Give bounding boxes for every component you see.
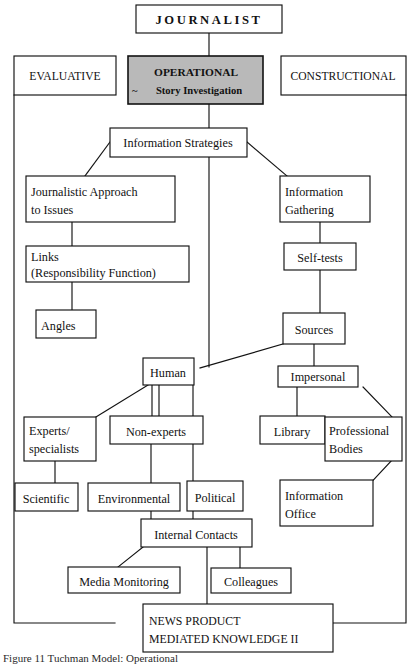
evaluative-label: EVALUATIVE [29, 70, 100, 83]
impersonal-label: Impersonal [291, 370, 346, 384]
edge-human-experts [96, 385, 148, 417]
scientific-label: Scientific [23, 492, 70, 506]
node-professional-bodies[interactable]: Professional Bodies [325, 417, 402, 461]
experts-line2: specialists [29, 442, 79, 456]
node-internal-contacts[interactable]: Internal Contacts [141, 519, 252, 547]
node-impersonal[interactable]: Impersonal [278, 366, 358, 387]
colleagues-label: Colleagues [224, 575, 278, 589]
information-strategies-label: Information Strategies [123, 136, 233, 150]
edge-infostrategies-gathering [247, 142, 287, 176]
news-product-line1: NEWS PRODUCT [149, 614, 241, 628]
figure-caption: Figure 11 Tuchman Model: Operational [3, 652, 417, 665]
edge-constructional-frame [302, 95, 406, 623]
node-non-experts[interactable]: Non-experts [110, 416, 203, 444]
node-constructional[interactable]: CONSTRUCTIONAL [281, 56, 406, 95]
human-label: Human [150, 366, 186, 380]
non-experts-label: Non-experts [126, 425, 186, 439]
node-angles[interactable]: Angles [36, 310, 96, 338]
node-environmental[interactable]: Environmental [88, 483, 180, 511]
node-scientific[interactable]: Scientific [15, 483, 78, 511]
node-experts-specialists[interactable]: Experts/ specialists [24, 417, 96, 461]
media-monitoring-label: Media Monitoring [79, 575, 169, 589]
node-news-product[interactable]: NEWS PRODUCT MEDIATED KNOWLEDGE II [143, 604, 333, 652]
political-label: Political [195, 491, 236, 505]
sources-label: Sources [295, 323, 334, 337]
journalistic-approach-line1: Journalistic Approach [31, 185, 138, 199]
node-operational[interactable]: OPERATIONAL ~ Story Investigation [128, 56, 263, 104]
operational-tilde: ~ [132, 85, 138, 96]
operational-subtitle: Story Investigation [156, 85, 242, 96]
self-tests-label: Self-tests [297, 251, 343, 265]
environmental-label: Environmental [98, 492, 171, 506]
node-information-gathering[interactable]: Information Gathering [280, 176, 370, 222]
angles-label: Angles [41, 319, 76, 333]
internal-contacts-label: Internal Contacts [154, 528, 238, 542]
professional-line2: Bodies [329, 442, 363, 456]
edge-infostrategies-journalistic [85, 142, 110, 176]
node-information-office[interactable]: Information Office [280, 480, 373, 526]
information-gathering-line1: Information [285, 185, 343, 199]
node-self-tests[interactable]: Self-tests [284, 243, 356, 270]
information-office-line2: Office [285, 507, 316, 521]
information-office-line1: Information [285, 489, 343, 503]
node-sources[interactable]: Sources [283, 313, 345, 344]
node-political[interactable]: Political [187, 481, 243, 511]
journalist-label: JOURNALIST [155, 13, 262, 27]
news-product-line2: MEDIATED KNOWLEDGE II [149, 632, 298, 646]
node-media-monitoring[interactable]: Media Monitoring [68, 567, 180, 593]
edge-sources-human [200, 344, 283, 368]
node-links[interactable]: Links (Responsibility Function) [26, 246, 189, 282]
operational-label: OPERATIONAL [154, 66, 238, 78]
node-information-strategies[interactable]: Information Strategies [110, 128, 247, 157]
edge-evaluative-frame [14, 95, 115, 623]
node-evaluative[interactable]: EVALUATIVE [14, 56, 116, 95]
node-colleagues[interactable]: Colleagues [211, 568, 291, 593]
journalistic-approach-line2: to Issues [31, 203, 74, 217]
edge-internal-media [118, 547, 143, 567]
links-line2: (Responsibility Function) [31, 266, 156, 280]
links-line1: Links [31, 250, 59, 264]
node-human[interactable]: Human [143, 358, 194, 385]
information-gathering-line2: Gathering [285, 203, 334, 217]
library-label: Library [274, 425, 311, 439]
operational-box [128, 56, 263, 104]
constructional-label: CONSTRUCTIONAL [291, 70, 396, 83]
node-library[interactable]: Library [260, 416, 325, 444]
experts-line1: Experts/ [29, 424, 70, 438]
node-journalist[interactable]: JOURNALIST [136, 5, 282, 33]
node-journalistic-approach[interactable]: Journalistic Approach to Issues [26, 176, 175, 222]
edge-impersonal-professional [363, 387, 392, 417]
professional-line1: Professional [329, 424, 390, 438]
